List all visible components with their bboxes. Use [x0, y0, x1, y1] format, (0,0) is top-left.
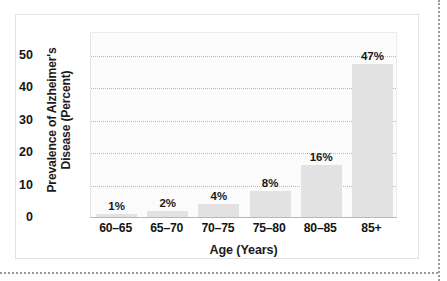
y-axis-title-line-1: Prevalence of Alzheimer's [46, 47, 60, 192]
x-axis-line [90, 217, 397, 218]
y-axis-title-line-2: Disease (Percent) [60, 71, 74, 170]
bar [250, 191, 291, 217]
gridline [91, 186, 396, 187]
gridline [91, 88, 396, 89]
bar [301, 165, 342, 217]
crop-guide-right-dotted-line [438, 0, 440, 281]
gridline [91, 153, 396, 154]
y-axis-tick-label: 50 [3, 48, 33, 62]
y-axis-tick-label: 40 [3, 80, 33, 94]
x-axis-title: Age (Years) [90, 243, 397, 257]
x-axis-tick-label: 80–85 [295, 221, 346, 235]
bar-value-label: 47% [352, 50, 393, 62]
y-axis-tick-label: 10 [3, 178, 33, 192]
bar-value-label: 2% [147, 197, 188, 209]
bar-value-label: 4% [198, 190, 239, 202]
bar-value-label: 1% [96, 200, 137, 212]
y-axis-tick-label: 0 [3, 210, 33, 224]
x-axis-tick-label: 60–65 [90, 221, 141, 235]
y-axis-title: Prevalence of Alzheimer's Disease (Perce… [43, 32, 77, 208]
x-axis-tick-label: 70–75 [192, 221, 243, 235]
x-axis-tick-label: 85+ [346, 221, 397, 235]
chart-figure-frame: Prevalence of Alzheimer's Disease (Perce… [15, 14, 419, 259]
crop-guide-bottom-dotted-line [0, 272, 438, 274]
bar [352, 64, 393, 217]
gridline [91, 121, 396, 122]
bar [198, 204, 239, 217]
y-axis-tick-label: 20 [3, 145, 33, 159]
gridline [91, 56, 396, 57]
y-axis-tick-label: 30 [3, 113, 33, 127]
bar-value-label: 16% [301, 151, 342, 163]
bar-value-label: 8% [250, 177, 291, 189]
page-canvas: Prevalence of Alzheimer's Disease (Perce… [0, 0, 447, 281]
x-axis-tick-label: 75–80 [244, 221, 295, 235]
x-axis-tick-label: 65–70 [141, 221, 192, 235]
plot-area: 1%2%4%8%16%47% [90, 32, 397, 217]
